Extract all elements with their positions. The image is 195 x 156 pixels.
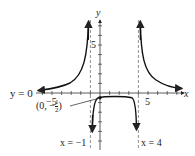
horizontal-asymptote-label: y = 0	[10, 88, 33, 99]
y-axis	[98, 20, 102, 150]
rational-function-graph	[0, 0, 195, 156]
curve-middle-branch	[92, 96, 136, 132]
curve-right-branch	[140, 22, 182, 89]
point-marker	[98, 96, 101, 99]
x-axis-label: x	[184, 89, 188, 99]
x-axis	[36, 91, 184, 95]
point-annotation-label: (0, −12)	[36, 99, 62, 114]
vertical-asymptote-right-label: x = 4	[141, 138, 162, 148]
x-tick-label-5: 5	[145, 97, 150, 107]
vertical-asymptote-left-label: x = −1	[60, 138, 86, 148]
y-axis-label: y	[96, 8, 100, 18]
curve-left-branch	[38, 22, 89, 91]
y-tick-label-5: 5	[91, 40, 96, 50]
